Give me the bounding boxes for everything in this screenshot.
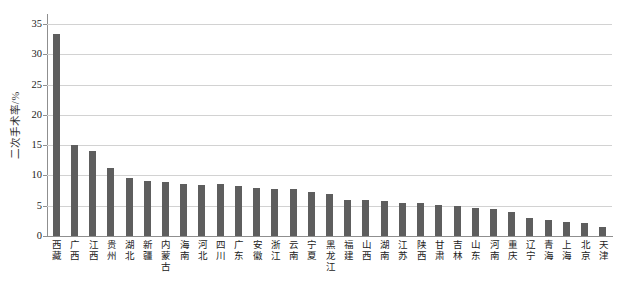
gridline-30 [47, 54, 612, 55]
gridline-25 [47, 85, 612, 86]
bar-江苏 [399, 203, 406, 236]
bar-吉林 [454, 206, 461, 236]
x-label-上海: 上海 [560, 240, 572, 262]
plot-area [47, 24, 612, 236]
bar-西藏 [53, 34, 60, 236]
bar-江西 [89, 151, 96, 236]
x-label-江西: 江西 [87, 240, 99, 262]
bar-山西 [362, 200, 369, 236]
y-tick-label-20: 20 [18, 109, 42, 121]
bar-河南 [490, 209, 497, 236]
x-label-河北: 河北 [196, 240, 208, 262]
x-label-湖南: 湖南 [378, 240, 390, 262]
x-label-云南: 云南 [287, 240, 299, 262]
x-label-北京: 北京 [579, 240, 591, 262]
x-label-安徽: 安徽 [251, 240, 263, 262]
x-label-山西: 山西 [360, 240, 372, 262]
x-label-海南: 海南 [178, 240, 190, 262]
x-label-贵州: 贵州 [105, 240, 117, 262]
bar-安徽 [253, 188, 260, 236]
bar-湖南 [381, 201, 388, 236]
x-label-黑龙江: 黑龙江 [324, 240, 336, 273]
y-tick-label-0: 0 [18, 230, 42, 242]
bar-湖北 [126, 178, 133, 236]
x-label-江苏: 江苏 [396, 240, 408, 262]
y-tick-label-5: 5 [18, 200, 42, 212]
y-tick-mark-0 [43, 236, 47, 237]
x-label-福建: 福建 [342, 240, 354, 262]
gridline-20 [47, 115, 612, 116]
gridline-10 [47, 175, 612, 176]
x-label-广东: 广东 [232, 240, 244, 262]
x-label-四川: 四川 [214, 240, 226, 262]
x-label-天津: 天津 [597, 240, 609, 262]
y-tick-label-15: 15 [18, 139, 42, 151]
bar-贵州 [107, 168, 114, 236]
bar-宁夏 [308, 192, 315, 236]
bar-天津 [599, 227, 606, 236]
y-tick-mark-10 [43, 175, 47, 176]
x-label-吉林: 吉林 [451, 240, 463, 262]
bar-四川 [217, 184, 224, 236]
x-label-新疆: 新疆 [141, 240, 153, 262]
y-tick-label-30: 30 [18, 48, 42, 60]
gridline-15 [47, 145, 612, 146]
bar-浙江 [271, 189, 278, 236]
bar-陕西 [417, 203, 424, 236]
y-tick-mark-30 [43, 54, 47, 55]
x-label-湖北: 湖北 [123, 240, 135, 262]
bar-河北 [198, 185, 205, 236]
bar-新疆 [144, 181, 151, 236]
bar-上海 [563, 222, 570, 236]
y-tick-mark-15 [43, 145, 47, 146]
x-label-甘肃: 甘肃 [433, 240, 445, 262]
y-tick-mark-5 [43, 206, 47, 207]
y-tick-mark-25 [43, 85, 47, 86]
bar-海南 [180, 184, 187, 236]
x-axis-line [47, 236, 613, 237]
y-tick-mark-35 [43, 24, 47, 25]
y-tick-mark-20 [43, 115, 47, 116]
x-label-内蒙古: 内蒙古 [159, 240, 171, 273]
x-label-宁夏: 宁夏 [305, 240, 317, 262]
bar-云南 [290, 189, 297, 236]
bar-广东 [235, 186, 242, 236]
bar-辽宁 [526, 218, 533, 236]
bar-黑龙江 [326, 194, 333, 236]
x-label-河南: 河南 [488, 240, 500, 262]
x-label-陕西: 陕西 [415, 240, 427, 262]
y-tick-label-25: 25 [18, 79, 42, 91]
x-label-浙江: 浙江 [269, 240, 281, 262]
bar-内蒙古 [162, 182, 169, 236]
gridline-35 [47, 24, 612, 25]
bar-重庆 [508, 212, 515, 236]
bar-山东 [472, 208, 479, 236]
bar-北京 [581, 223, 588, 236]
y-tick-label-35: 35 [18, 18, 42, 30]
x-label-青海: 青海 [542, 240, 554, 262]
reoperation-rate-bar-chart: 二次手术率/% 05101520253035 西藏广西江西贵州湖北新疆内蒙古海南… [0, 0, 625, 295]
x-label-山东: 山东 [469, 240, 481, 262]
bar-青海 [545, 220, 552, 236]
bar-广西 [71, 145, 78, 236]
x-label-广西: 广西 [68, 240, 80, 262]
x-label-重庆: 重庆 [506, 240, 518, 262]
x-label-西藏: 西藏 [50, 240, 62, 262]
bar-福建 [344, 200, 351, 236]
bar-甘肃 [435, 205, 442, 236]
y-tick-label-10: 10 [18, 169, 42, 181]
x-label-辽宁: 辽宁 [524, 240, 536, 262]
